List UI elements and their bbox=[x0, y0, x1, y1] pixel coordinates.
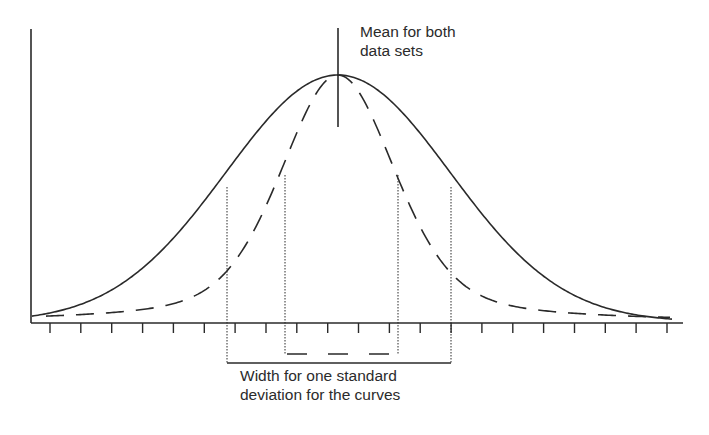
mean-annotation: Mean for both data sets bbox=[360, 22, 456, 60]
wide-distribution-curve bbox=[32, 75, 672, 319]
mean-annotation-line1: Mean for both bbox=[360, 22, 456, 41]
mean-annotation-line2: data sets bbox=[360, 41, 456, 60]
narrow-distribution-curve bbox=[46, 75, 670, 317]
width-annotation-line1: Width for one standard bbox=[240, 366, 400, 385]
x-axis-ticks bbox=[50, 323, 667, 333]
width-annotation-line2: deviation for the curves bbox=[240, 385, 400, 404]
width-annotation: Width for one standard deviation for the… bbox=[240, 366, 400, 404]
